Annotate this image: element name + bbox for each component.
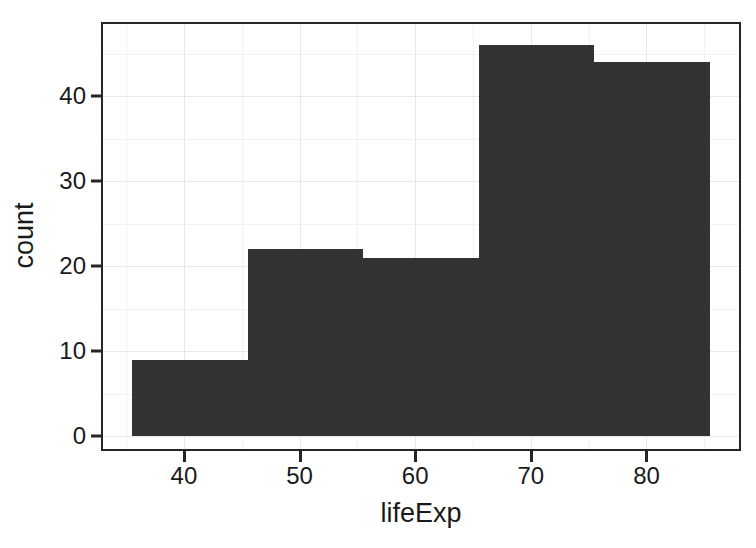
y-axis-tick-label: 10: [40, 337, 86, 365]
y-axis-tick-mark: [91, 95, 102, 98]
x-axis-tick-label: 40: [154, 462, 214, 490]
gridline-major-horizontal: [103, 436, 739, 437]
histogram-bar: [479, 45, 595, 436]
histogram-figure: count 010203040 4050607080 lifeExp: [0, 0, 756, 548]
plot-panel: [101, 22, 741, 451]
y-axis-tick-label: 20: [40, 252, 86, 280]
x-axis-tick-mark: [414, 451, 417, 462]
x-axis-tick-labels: 4050607080: [0, 462, 756, 502]
x-axis-tick-label: 70: [501, 462, 561, 490]
x-axis-tick-label: 50: [270, 462, 330, 490]
y-axis-tick-mark: [91, 265, 102, 268]
y-axis-tick-label: 0: [40, 422, 86, 450]
y-axis-tick-label: 40: [40, 82, 86, 110]
y-axis-tick-label: 30: [40, 167, 86, 195]
x-axis-tick-mark: [299, 451, 302, 462]
x-axis-title: lifeExp: [101, 498, 741, 529]
x-axis-tick-mark: [645, 451, 648, 462]
y-axis-tick-mark: [91, 350, 102, 353]
x-axis-tick-label: 60: [385, 462, 445, 490]
x-axis-tick-mark: [530, 451, 533, 462]
y-axis-tick-mark: [91, 180, 102, 183]
plot-area: [103, 24, 739, 449]
histogram-bar: [594, 62, 710, 436]
gridline-minor-vertical: [126, 24, 127, 449]
histogram-bar: [248, 249, 364, 436]
y-axis-tick-mark: [91, 435, 102, 438]
x-axis-tick-label: 80: [616, 462, 676, 490]
histogram-bar: [132, 360, 248, 437]
histogram-bar: [363, 258, 479, 437]
x-axis-tick-mark: [183, 451, 186, 462]
gridline-minor-horizontal: [103, 54, 739, 55]
